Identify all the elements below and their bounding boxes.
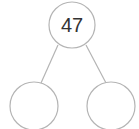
edge-right	[86, 45, 106, 83]
part-circle-left	[10, 82, 58, 129]
whole-value: 47	[61, 14, 83, 36]
part-node-right	[87, 82, 135, 129]
part-node-left	[10, 82, 58, 129]
number-bond-diagram: 47	[0, 0, 139, 129]
part-circle-right	[87, 82, 135, 129]
whole-node: 47	[49, 2, 95, 48]
edge-left	[41, 45, 58, 83]
